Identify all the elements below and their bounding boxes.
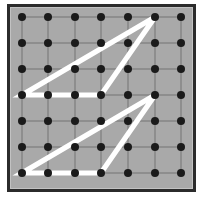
peg-dot-c7-r2[interactable] [177,39,185,47]
peg-dot-c2-r7[interactable] [44,169,52,177]
peg-dot-c5-r2[interactable] [124,39,132,47]
peg-dot-c1-r5[interactable] [18,117,26,125]
geoboard-surface [10,7,193,189]
peg-dot-c5-r6[interactable] [124,143,132,151]
peg-dot-c2-r3[interactable] [44,65,52,73]
peg-dot-c1-r2[interactable] [18,39,26,47]
peg-dot-c4-r5[interactable] [97,117,105,125]
peg-dot-c3-r5[interactable] [71,117,79,125]
peg-dot-c4-r4[interactable] [97,91,105,99]
peg-dot-c7-r6[interactable] [177,143,185,151]
peg-dot-c1-r4[interactable] [18,91,26,99]
peg-dot-c5-r5[interactable] [124,117,132,125]
peg-dot-c7-r5[interactable] [177,117,185,125]
peg-dot-c6-r1[interactable] [151,13,159,21]
peg-dot-c6-r6[interactable] [151,143,159,151]
peg-dot-c5-r3[interactable] [124,65,132,73]
peg-dot-c1-r7[interactable] [18,169,26,177]
peg-dot-c5-r1[interactable] [124,13,132,21]
geoboard-canvas [10,7,193,189]
peg-dot-c4-r7[interactable] [97,169,105,177]
peg-dot-c3-r2[interactable] [71,39,79,47]
peg-dot-c7-r3[interactable] [177,65,185,73]
peg-dot-c7-r1[interactable] [177,13,185,21]
peg-dot-c7-r7[interactable] [177,169,185,177]
peg-dot-c4-r1[interactable] [97,13,105,21]
peg-dot-c4-r6[interactable] [97,143,105,151]
peg-dot-c3-r1[interactable] [71,13,79,21]
peg-dot-c3-r4[interactable] [71,91,79,99]
peg-dot-c1-r3[interactable] [18,65,26,73]
geoboard-frame [7,4,196,192]
peg-dot-c2-r6[interactable] [44,143,52,151]
peg-dot-c3-r6[interactable] [71,143,79,151]
upper-triangle[interactable] [22,17,155,95]
peg-dot-c4-r2[interactable] [97,39,105,47]
peg-dot-c5-r7[interactable] [124,169,132,177]
peg-dot-c6-r5[interactable] [151,117,159,125]
peg-dot-c1-r6[interactable] [18,143,26,151]
peg-dot-c3-r7[interactable] [71,169,79,177]
peg-dot-c7-r4[interactable] [177,91,185,99]
peg-dot-c2-r5[interactable] [44,117,52,125]
peg-dot-c6-r2[interactable] [151,39,159,47]
peg-dot-c2-r2[interactable] [44,39,52,47]
peg-dot-c2-r4[interactable] [44,91,52,99]
lower-triangle[interactable] [22,95,155,173]
peg-dot-c2-r1[interactable] [44,13,52,21]
geoboard-figure: Geoboard with two congruent triangles [0,0,203,199]
peg-dot-c6-r3[interactable] [151,65,159,73]
peg-dot-c3-r3[interactable] [71,65,79,73]
peg-dot-c6-r4[interactable] [151,91,159,99]
peg-dot-c5-r4[interactable] [124,91,132,99]
peg-dot-c6-r7[interactable] [151,169,159,177]
peg-dot-c4-r3[interactable] [97,65,105,73]
peg-dot-c1-r1[interactable] [18,13,26,21]
